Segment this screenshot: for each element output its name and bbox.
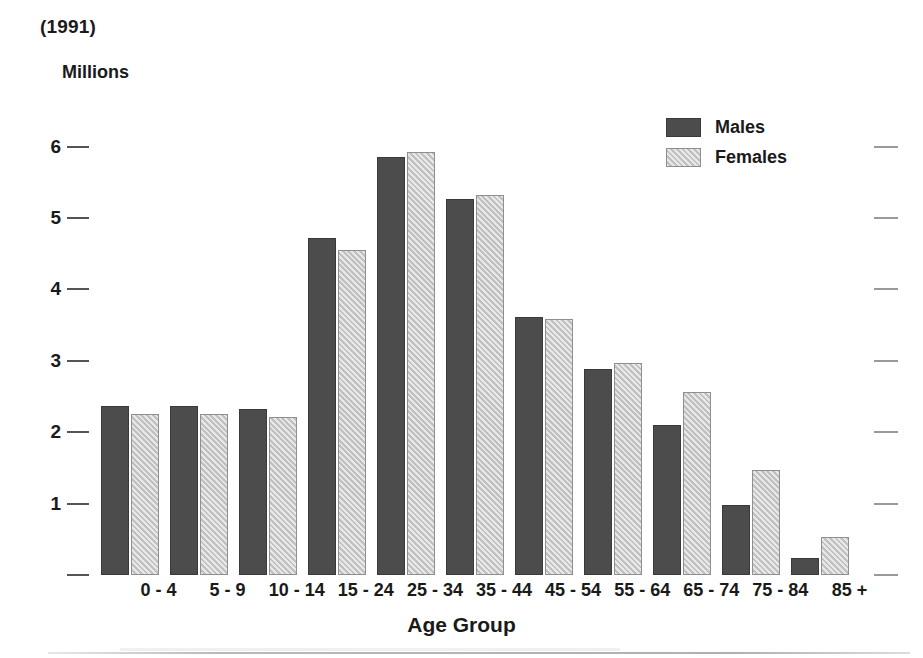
bar-males bbox=[653, 425, 681, 575]
y-axis-label: Millions bbox=[62, 62, 129, 83]
y-tick-label: 4 bbox=[39, 278, 61, 300]
bar-females bbox=[752, 470, 780, 575]
bar-group bbox=[446, 118, 504, 575]
population-bar-chart: (1991) Millions 654321 0 - 45 - 910 - 14… bbox=[0, 0, 923, 658]
y-tick-mark bbox=[67, 503, 89, 505]
bar-group bbox=[101, 118, 159, 575]
legend-item-males: Males bbox=[666, 112, 787, 142]
plot-area: 654321 0 - 45 - 910 - 1415 - 2425 - 3435… bbox=[95, 118, 855, 575]
y-tick-mark bbox=[67, 217, 89, 219]
year-title: (1991) bbox=[40, 16, 96, 38]
y-tick-label: 5 bbox=[39, 207, 61, 229]
y-tick-mark bbox=[67, 574, 89, 576]
y-tick-mark bbox=[67, 360, 89, 362]
bar-group bbox=[584, 118, 642, 575]
y-tick-mark bbox=[67, 431, 89, 433]
legend-swatch-females bbox=[666, 148, 701, 167]
bar-females bbox=[614, 363, 642, 575]
bar-males bbox=[446, 199, 474, 575]
bar-males bbox=[722, 505, 750, 575]
right-tick-mark bbox=[874, 360, 898, 362]
bar-females bbox=[476, 195, 504, 575]
chart-legend: Males Females bbox=[666, 112, 787, 172]
bar-group bbox=[170, 118, 228, 575]
bar-females bbox=[269, 417, 297, 575]
legend-swatch-males bbox=[666, 118, 701, 137]
footer-band bbox=[120, 648, 620, 651]
legend-label-males: Males bbox=[715, 117, 765, 138]
footer-rule bbox=[48, 652, 910, 654]
bar-females bbox=[545, 319, 573, 575]
y-tick-mark bbox=[67, 288, 89, 290]
y-tick-label: 1 bbox=[39, 493, 61, 515]
legend-label-females: Females bbox=[715, 147, 787, 168]
bar-males bbox=[239, 409, 267, 575]
y-tick-label: 2 bbox=[39, 421, 61, 443]
bar-group bbox=[515, 118, 573, 575]
bar-males bbox=[791, 558, 819, 575]
bar-group bbox=[791, 118, 849, 575]
bar-group bbox=[377, 118, 435, 575]
y-tick-mark bbox=[67, 146, 89, 148]
bar-males bbox=[170, 406, 198, 575]
x-tick-label: 85 + bbox=[789, 580, 909, 601]
bar-groups bbox=[95, 118, 855, 575]
bar-males bbox=[308, 238, 336, 575]
bar-females bbox=[338, 250, 366, 575]
right-tick-mark bbox=[874, 288, 898, 290]
bar-males bbox=[101, 406, 129, 575]
bar-group bbox=[239, 118, 297, 575]
right-tick-mark bbox=[874, 431, 898, 433]
right-tick-mark bbox=[874, 574, 898, 576]
legend-item-females: Females bbox=[666, 142, 787, 172]
bar-males bbox=[584, 369, 612, 575]
right-tick-mark bbox=[874, 146, 898, 148]
bar-males bbox=[377, 157, 405, 575]
right-tick-mark bbox=[874, 503, 898, 505]
bar-females bbox=[821, 537, 849, 575]
bar-males bbox=[515, 317, 543, 575]
bar-females bbox=[407, 152, 435, 575]
bar-group bbox=[653, 118, 711, 575]
x-axis-title: Age Group bbox=[0, 613, 923, 637]
bar-females bbox=[200, 414, 228, 575]
y-tick-label: 3 bbox=[39, 350, 61, 372]
right-tick-mark bbox=[874, 217, 898, 219]
bar-group bbox=[722, 118, 780, 575]
bar-females bbox=[683, 392, 711, 575]
bar-group bbox=[308, 118, 366, 575]
y-tick-label: 6 bbox=[39, 136, 61, 158]
bar-females bbox=[131, 414, 159, 575]
